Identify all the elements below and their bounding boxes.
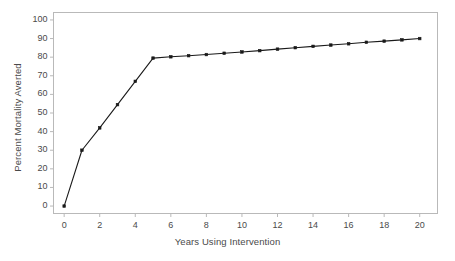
x-tick-label: 16 — [336, 220, 362, 230]
data-point-marker — [134, 80, 137, 83]
data-point-marker — [116, 103, 119, 106]
data-point-marker — [81, 149, 84, 152]
y-tick-label: 70 — [22, 70, 48, 80]
x-tick-label: 6 — [158, 220, 184, 230]
data-point-marker — [294, 46, 297, 49]
y-tick-label: 40 — [22, 126, 48, 136]
y-tick-label: 20 — [22, 163, 48, 173]
data-point-marker — [205, 53, 208, 56]
y-tick-label: 60 — [22, 88, 48, 98]
data-point-marker — [63, 205, 66, 208]
x-axis-title: Years Using Intervention — [0, 236, 455, 247]
x-tick-label: 8 — [193, 220, 219, 230]
data-point-marker — [223, 52, 226, 55]
data-point-marker — [330, 44, 333, 47]
x-tick-label: 10 — [229, 220, 255, 230]
chart-figure: Years Using Intervention Percent Mortali… — [0, 0, 455, 261]
data-point-marker — [187, 54, 190, 57]
y-tick-label: 30 — [22, 144, 48, 154]
x-tick-label: 14 — [300, 220, 326, 230]
data-point-marker — [241, 51, 244, 54]
y-tick-label: 100 — [22, 14, 48, 24]
y-tick-label: 80 — [22, 51, 48, 61]
data-point-marker — [418, 37, 421, 40]
data-point-marker — [383, 40, 386, 43]
data-point-marker — [276, 48, 279, 51]
x-tick-label: 18 — [371, 220, 397, 230]
data-point-marker — [258, 49, 261, 52]
y-tick-label: 50 — [22, 107, 48, 117]
y-tick-label: 10 — [22, 181, 48, 191]
x-tick-label: 2 — [87, 220, 113, 230]
data-point-marker — [347, 42, 350, 45]
data-point-marker — [401, 39, 404, 42]
y-tick-label: 90 — [22, 33, 48, 43]
data-point-marker — [312, 45, 315, 48]
data-point-marker — [170, 55, 173, 58]
data-point-marker — [98, 127, 101, 130]
x-tick-label: 0 — [51, 220, 77, 230]
data-point-marker — [365, 41, 368, 44]
x-tick-label: 20 — [407, 220, 433, 230]
x-tick-label: 12 — [265, 220, 291, 230]
x-tick-label: 4 — [122, 220, 148, 230]
data-point-marker — [152, 57, 155, 60]
y-tick-label: 0 — [22, 200, 48, 210]
